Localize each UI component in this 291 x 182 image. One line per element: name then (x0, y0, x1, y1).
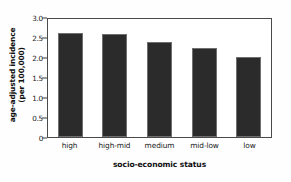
bar-slot (182, 19, 227, 137)
y-axis-tick-label: 3.0 (22, 14, 43, 23)
y-axis-tick-label: 1.0 (22, 94, 43, 103)
x-axis-tick-label: medium (137, 141, 182, 150)
x-axis-tick-label: low (227, 141, 272, 150)
bar-slot (48, 19, 93, 137)
bar-high-mid (102, 34, 127, 137)
x-axis-title: socio-economic status (47, 160, 272, 169)
x-axis-tick-labels: highhigh-midmediummid-lowlow (47, 141, 272, 150)
y-axis-tick-label: 1.5 (22, 74, 43, 83)
bar-chart-figure: age-adjusted incidence (per 100,000) 00.… (0, 0, 291, 182)
bar-slot (137, 19, 182, 137)
bar-slot (93, 19, 138, 137)
x-axis-tick-label: high-mid (92, 141, 137, 150)
plot-area (47, 18, 272, 138)
bar-medium (147, 42, 172, 137)
bar-high (58, 33, 83, 137)
bar-slot (226, 19, 271, 137)
x-axis-tick-label: mid-low (182, 141, 227, 150)
y-axis-tick-label: 0.5 (22, 114, 43, 123)
y-axis-tick-labels: 00.51.01.52.02.53.0 (22, 0, 43, 182)
y-axis-title-line1: age-adjusted incidence (8, 28, 17, 123)
bar-low (236, 57, 261, 137)
bar-mid-low (192, 48, 217, 137)
y-axis-tick-label: 2.0 (22, 54, 43, 63)
y-axis-tick-label: 2.5 (22, 34, 43, 43)
x-axis-tick-label: high (47, 141, 92, 150)
y-axis-tick-label: 0 (22, 134, 43, 143)
bar-series (48, 19, 271, 137)
